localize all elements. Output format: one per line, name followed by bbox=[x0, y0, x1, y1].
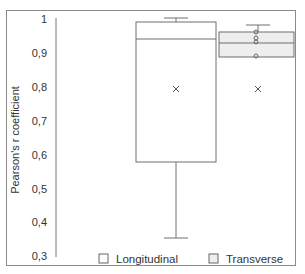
box-longitudinal bbox=[136, 18, 216, 238]
y-tick-0.9: 0,9 bbox=[32, 47, 47, 59]
y-tick-0.4: 0,4 bbox=[32, 216, 47, 228]
y-tick-labels: 1 0,9 0,8 0,7 0,6 0,5 0,4 0,3 bbox=[32, 13, 47, 262]
box-transverse bbox=[219, 25, 294, 92]
legend: Longitudinal Transverse bbox=[99, 253, 283, 265]
y-tick-0.6: 0,6 bbox=[32, 149, 47, 161]
legend-swatch-transverse bbox=[209, 254, 218, 263]
iqr-box bbox=[136, 22, 216, 162]
mean-marker bbox=[255, 86, 261, 92]
y-axis-label: Pearson's r coefficient bbox=[9, 86, 21, 194]
y-tick-0.7: 0,7 bbox=[32, 115, 47, 127]
y-tick-0.8: 0,8 bbox=[32, 81, 47, 93]
legend-label-transverse: Transverse bbox=[226, 253, 283, 265]
legend-swatch-longitudinal bbox=[99, 254, 108, 263]
y-tick-0.3: 0,3 bbox=[32, 250, 47, 262]
y-tick-1: 1 bbox=[41, 13, 47, 25]
box-plot: 1 0,9 0,8 0,7 0,6 0,5 0,4 0,3 Pearson's … bbox=[0, 0, 305, 274]
y-tick-0.5: 0,5 bbox=[32, 183, 47, 195]
legend-label-longitudinal: Longitudinal bbox=[116, 253, 178, 265]
